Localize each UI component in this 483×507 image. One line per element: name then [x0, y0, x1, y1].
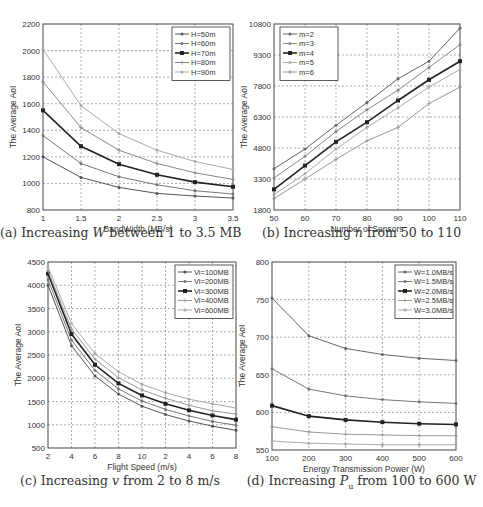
legend-label: m=2 [299, 30, 314, 39]
y-tick-label: 1600 [22, 100, 40, 109]
y-tick-label: 2000 [22, 47, 40, 56]
caption-a-var: W [92, 225, 105, 240]
caption-b-var: n [355, 225, 363, 240]
y-tick-label: 6300 [253, 113, 271, 122]
y-axis-label: The Average AoI [8, 86, 18, 149]
legend-label: H=70m [191, 49, 215, 58]
y-tick-label: 600 [256, 408, 270, 417]
caption-d-suffix: from 100 to 600 W [353, 473, 476, 488]
y-tick-label: 800 [27, 206, 41, 215]
legend-label: W=1.5MB/s [414, 277, 453, 286]
y-tick-label: 4800 [253, 144, 271, 153]
legend: m=2m=3m=4m=5m=6 [280, 27, 338, 81]
chart-b: 1800330048006300780093001080050607080901… [240, 0, 483, 225]
x-tick-label: 2.5 [151, 214, 163, 223]
caption-d: (d) Increasing Pu from 100 to 600 W [240, 473, 483, 491]
y-tick-label: 7800 [253, 82, 271, 91]
y-tick-label: 10800 [249, 20, 272, 29]
y-tick-label: 3300 [253, 175, 271, 184]
legend-label: m=6 [299, 68, 314, 77]
series-h-70m [41, 108, 235, 188]
y-tick-label: 4500 [27, 258, 45, 267]
x-tick-label: 60 [301, 214, 310, 223]
legend-label: W=2.0MB/s [414, 287, 453, 296]
legend-label: H=50m [191, 30, 215, 39]
chart-panel-b: 1800330048006300780093001080050607080901… [240, 0, 483, 250]
legend-label: Vi=300MB [194, 287, 229, 296]
caption-a-suffix: between 1 to 3.5 MB [105, 225, 241, 240]
series-h-80m [41, 80, 235, 182]
y-tick-label: 1200 [22, 153, 40, 162]
x-tick-label: 200 [302, 454, 316, 463]
caption-c-suffix: from 2 to 8 m/s [119, 473, 220, 488]
legend-label: Vi=400MB [194, 296, 229, 305]
legend-label: m=3 [299, 39, 314, 48]
y-tick-label: 750 [256, 296, 270, 305]
y-tick-label: 1400 [22, 126, 40, 135]
legend-label: m=5 [299, 58, 314, 67]
legend-label: m=4 [299, 49, 314, 58]
x-tick-label: 6 [210, 452, 215, 461]
legend-label: Vi=100MB [194, 268, 229, 277]
x-tick-label: 100 [265, 454, 279, 463]
legend-label: W=1.0MB/s [414, 268, 453, 277]
chart-a: 800100012001400160018002000220011.522.53… [0, 0, 240, 225]
x-tick-label: 110 [454, 214, 467, 223]
series-w-3-0mb-s [271, 439, 458, 446]
x-tick-label: 90 [394, 214, 403, 223]
x-tick-label: 4 [69, 452, 74, 461]
x-tick-label: 1.5 [75, 214, 87, 223]
y-tick-label: 2000 [27, 374, 45, 383]
caption-a: (a) Increasing W between 1 to 3.5 MB [0, 225, 240, 240]
caption-a-prefix: (a) Increasing [0, 225, 92, 240]
series-w-1-5mb-s [271, 367, 458, 405]
y-tick-label: 2500 [27, 351, 45, 360]
x-tick-label: 600 [449, 454, 463, 463]
y-tick-label: 650 [256, 371, 270, 380]
chart-panel-a: 800100012001400160018002000220011.522.53… [0, 0, 240, 250]
y-tick-label: 3000 [27, 328, 45, 337]
y-tick-label: 500 [32, 444, 46, 453]
y-tick-label: 800 [256, 258, 270, 267]
legend-label: H=80m [191, 58, 215, 67]
y-tick-label: 9300 [253, 51, 271, 60]
caption-c: (c) Increasing v from 2 to 8 m/s [0, 473, 240, 488]
x-tick-label: 10 [138, 452, 147, 461]
x-tick-label: 80 [363, 214, 372, 223]
caption-b-suffix: from 50 to 110 [363, 225, 461, 240]
x-tick-label: 6 [93, 452, 98, 461]
y-axis-label: The Average AoI [13, 324, 23, 387]
y-tick-label: 1000 [22, 179, 40, 188]
x-tick-label: 100 [422, 214, 436, 223]
caption-d-var: P [340, 473, 348, 488]
series-w-2-5mb-s [270, 425, 458, 438]
x-tick-label: 3.5 [227, 214, 239, 223]
y-tick-label: 1800 [22, 73, 40, 82]
legend: W=1.0MB/sW=1.5MB/sW=2.0MB/sW=2.5MB/sW=3.… [395, 265, 453, 319]
x-axis-label: Flight Speed (m/s) [107, 462, 177, 472]
x-tick-label: 400 [376, 454, 390, 463]
caption-b: (b) Increasing n from 50 to 110 [240, 225, 483, 240]
x-tick-label: 4 [187, 452, 192, 461]
legend: H=50mH=60mH=70mH=80mH=90m [172, 27, 230, 81]
legend-label: W=3.0MB/s [414, 306, 453, 315]
x-tick-label: 1 [41, 214, 46, 223]
x-tick-label: 8 [116, 452, 121, 461]
y-axis-label: The Average AoI [239, 86, 249, 149]
series-w-2-0mb-s [270, 404, 458, 427]
y-tick-label: 1500 [27, 398, 45, 407]
y-tick-label: 3500 [27, 305, 45, 314]
x-tick-label: 300 [339, 454, 353, 463]
series-h-50m [42, 155, 235, 199]
x-tick-label: 70 [332, 214, 341, 223]
x-tick-label: 50 [270, 214, 279, 223]
chart-c: 5001000150020002500300035004000450024681… [0, 250, 240, 475]
y-tick-label: 2200 [22, 20, 40, 29]
chart-d: 550600650700750800100200300400500600Ener… [240, 250, 483, 475]
x-tick-label: 2 [46, 452, 51, 461]
chart-panel-c: 5001000150020002500300035004000450024681… [0, 250, 240, 507]
legend-label: H=90m [191, 68, 215, 77]
caption-b-prefix: (b) Increasing [262, 225, 355, 240]
x-tick-label: 500 [413, 454, 427, 463]
legend-label: Vi=600MB [194, 306, 229, 315]
